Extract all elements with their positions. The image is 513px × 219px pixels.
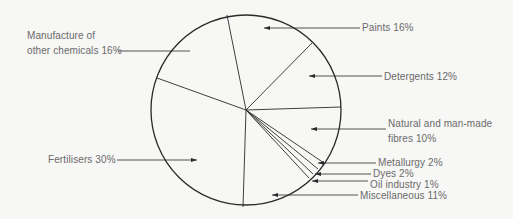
label-detergents: Detergents 12% <box>384 70 457 83</box>
label-manufacture-line1: Manufacture of <box>27 29 122 42</box>
label-paints: Paints 16% <box>362 21 414 34</box>
callout-lines <box>117 28 386 195</box>
label-misc: Miscellaneous 11% <box>360 189 447 202</box>
label-fibres: Natural and man-made fibres 10% <box>388 117 492 145</box>
pie-chart-figure: Manufacture of other chemicals 16% Paint… <box>0 0 513 219</box>
label-manufacture: Manufacture of other chemicals 16% <box>27 29 122 57</box>
label-manufacture-line2: other chemicals 16% <box>27 44 122 57</box>
label-fertilisers: Fertilisers 30% <box>48 153 116 166</box>
label-fibres-line2: fibres 10% <box>388 132 492 145</box>
label-fibres-line1: Natural and man-made <box>388 117 492 130</box>
